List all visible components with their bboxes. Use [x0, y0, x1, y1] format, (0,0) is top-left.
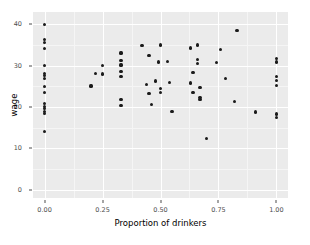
data-point — [170, 110, 173, 113]
data-point — [196, 58, 199, 61]
y-tick-mark — [29, 189, 32, 190]
data-point — [198, 86, 201, 89]
screenshot-root: 010203040 0.000.250.500.751.00 Proportio… — [0, 0, 310, 245]
data-point — [43, 91, 46, 94]
gridline-minor-vertical — [132, 12, 133, 198]
data-point — [168, 81, 171, 84]
x-tick-label: 0.00 — [37, 206, 51, 214]
data-point — [147, 54, 150, 57]
data-point — [233, 100, 236, 103]
data-point — [119, 98, 122, 101]
x-tick-mark — [160, 200, 161, 203]
gridline-major-vertical — [218, 12, 219, 198]
data-point — [43, 64, 46, 67]
data-point — [191, 71, 194, 74]
x-axis-title: Proportion of drinkers — [33, 218, 288, 228]
data-point — [43, 47, 46, 50]
data-point — [159, 87, 162, 90]
y-tick-mark — [29, 65, 32, 66]
x-tick-mark — [276, 200, 277, 203]
chart-panel — [33, 12, 288, 198]
x-tick-label: 1.00 — [269, 206, 283, 214]
x-tick-mark — [218, 200, 219, 203]
x-tick-mark — [102, 200, 103, 203]
plot-device: 010203040 0.000.250.500.751.00 Proportio… — [0, 0, 310, 245]
data-point — [94, 72, 97, 75]
data-point — [101, 64, 104, 67]
gridline-major-vertical — [276, 12, 277, 198]
x-tick-label: 0.75 — [211, 206, 225, 214]
data-point — [43, 112, 46, 115]
data-point — [191, 91, 194, 94]
data-point — [157, 60, 160, 63]
y-tick-mark — [29, 148, 32, 149]
y-tick-label: 10 — [14, 144, 22, 152]
data-point — [119, 63, 122, 66]
data-point — [140, 44, 143, 47]
data-point — [159, 43, 162, 46]
data-point — [119, 75, 122, 78]
y-tick-label: 40 — [14, 20, 22, 28]
gridline-major-vertical — [103, 12, 104, 198]
data-point — [43, 41, 46, 44]
y-tick-label: 0 — [18, 186, 22, 194]
data-point — [119, 59, 122, 62]
data-point — [166, 60, 169, 63]
data-point — [219, 48, 222, 51]
data-point — [43, 130, 46, 133]
data-point — [275, 57, 278, 60]
gridline-minor-vertical — [74, 12, 75, 198]
data-point — [189, 46, 192, 49]
x-tick-label: 0.25 — [95, 206, 109, 214]
data-point — [43, 77, 46, 80]
data-point — [224, 77, 227, 80]
gridline-minor-vertical — [189, 12, 190, 198]
data-point — [154, 79, 157, 82]
data-point — [150, 103, 153, 106]
data-point — [198, 98, 201, 101]
data-point — [275, 60, 278, 63]
gridline-minor-vertical — [247, 12, 248, 198]
data-point — [119, 70, 122, 73]
y-tick-mark — [29, 24, 32, 25]
x-axis: 0.000.250.500.751.00 — [0, 200, 310, 214]
data-point — [215, 61, 218, 64]
data-point — [205, 137, 208, 140]
y-tick-label: 30 — [14, 62, 22, 70]
data-point — [275, 116, 278, 119]
data-point — [147, 92, 150, 95]
data-point — [254, 110, 257, 113]
x-tick-label: 0.50 — [153, 206, 167, 214]
data-point — [196, 43, 199, 46]
data-point — [101, 72, 104, 75]
data-point — [89, 84, 92, 87]
data-point — [119, 51, 122, 54]
data-point — [235, 29, 238, 32]
data-point — [275, 84, 278, 87]
y-tick-mark — [29, 107, 32, 108]
data-point — [159, 91, 162, 94]
data-point — [43, 85, 46, 88]
data-point — [189, 81, 192, 84]
data-point — [275, 79, 278, 82]
y-axis-title: wage — [9, 94, 19, 117]
gridline-major-vertical — [161, 12, 162, 198]
x-tick-mark — [44, 200, 45, 203]
data-point — [43, 23, 46, 26]
